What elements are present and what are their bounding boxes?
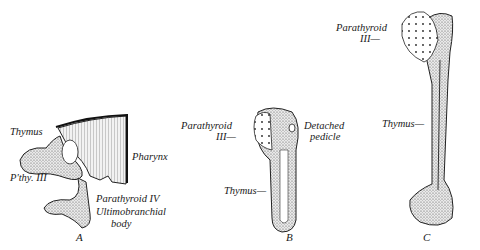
label-a-parathyroid4: Parathyroid IV [96,193,159,204]
caption-a: A [76,231,83,243]
label-b-parathyroid-iii: III— [216,131,236,142]
label-b-parathyroid: Parathyroid [181,120,232,131]
pharynx-opening [62,140,78,164]
thymus-b-lumen [280,150,288,223]
label-b-detached: Detached [304,120,344,131]
parathyroid4-shape [44,178,90,228]
label-c-thymus: Thymus— [382,118,424,129]
label-c-parathyroid: Parathyroid [336,22,387,33]
label-a-body: body [111,218,131,229]
figure: Thymus P'thy. III Pharynx Parathyroid IV… [0,0,480,250]
caption-b: B [286,231,293,243]
caption-c: C [423,231,430,243]
label-a-thymus: Thymus [10,126,43,137]
label-a-ultimobranchial: Ultimobranchial [96,206,166,217]
label-c-parathyroid-iii: III— [360,33,380,44]
label-b-thymus: Thymus— [224,185,266,196]
label-a-pharynx: Pharynx [132,151,168,162]
detached-pedicle-shape [289,124,295,132]
parathyroid3-b-shape [254,112,272,150]
label-b-pedicle: pedicle [310,131,340,142]
label-a-pthy3: P'thy. III [10,172,47,183]
panel-b-drawing [254,108,298,232]
